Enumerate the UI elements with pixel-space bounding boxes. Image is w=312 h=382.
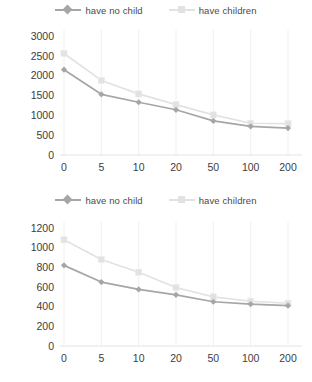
data-point-marker: [210, 118, 216, 124]
chart-top-svg: 05001000150020002500300005102050100200: [0, 0, 312, 190]
y-axis-tick-label: 2000: [31, 69, 55, 81]
y-axis-tick-label: 0: [48, 149, 54, 161]
data-point-marker: [210, 112, 216, 118]
data-point-marker: [136, 286, 142, 292]
figure-panel: have no child have children 050010001500…: [0, 0, 312, 382]
data-point-marker: [136, 269, 142, 275]
x-axis-tick-label: 0: [61, 161, 67, 173]
data-point-marker: [173, 284, 179, 290]
x-axis-tick-label: 5: [98, 352, 104, 364]
y-axis-tick-label: 1200: [31, 222, 55, 234]
chart-top-plot-area: 05001000150020002500300005102050100200: [0, 0, 312, 190]
x-axis-tick-label: 100: [242, 352, 260, 364]
x-axis-tick-label: 10: [133, 352, 145, 364]
x-axis-tick-label: 5: [98, 161, 104, 173]
x-axis-tick-label: 20: [170, 352, 182, 364]
x-axis-tick-label: 200: [279, 161, 297, 173]
y-axis-tick-label: 400: [36, 300, 54, 312]
data-point-marker: [61, 50, 67, 56]
y-axis-tick-label: 500: [36, 129, 54, 141]
x-axis-tick-label: 200: [279, 352, 297, 364]
y-axis-tick-label: 1000: [31, 241, 55, 253]
y-axis-tick-label: 3000: [31, 30, 55, 42]
x-axis-tick-label: 50: [207, 352, 219, 364]
x-axis-tick-label: 100: [242, 161, 260, 173]
data-point-marker: [136, 91, 142, 97]
data-point-marker: [61, 237, 67, 243]
chart-bottom-svg: 02004006008001000120005102050100200: [0, 190, 312, 382]
data-point-marker: [98, 279, 104, 285]
chart-top: have no child have children 050010001500…: [0, 0, 312, 190]
y-axis-tick-label: 0: [48, 340, 54, 352]
y-axis-tick-label: 1500: [31, 89, 55, 101]
y-axis-tick-label: 600: [36, 281, 54, 293]
data-point-marker: [98, 256, 104, 262]
chart-bottom-plot-area: 02004006008001000120005102050100200: [0, 190, 312, 382]
x-axis-tick-label: 50: [207, 161, 219, 173]
x-axis-tick-label: 0: [61, 352, 67, 364]
y-axis-tick-label: 200: [36, 320, 54, 332]
data-point-marker: [61, 262, 67, 268]
x-axis-tick-label: 10: [133, 161, 145, 173]
data-point-marker: [136, 99, 142, 105]
data-point-marker: [98, 77, 104, 83]
chart-bottom: have no child have children 020040060080…: [0, 190, 312, 382]
data-point-marker: [173, 292, 179, 298]
x-axis-tick-label: 20: [170, 161, 182, 173]
y-axis-tick-label: 2500: [31, 50, 55, 62]
y-axis-tick-label: 800: [36, 261, 54, 273]
y-axis-tick-label: 1000: [31, 109, 55, 121]
